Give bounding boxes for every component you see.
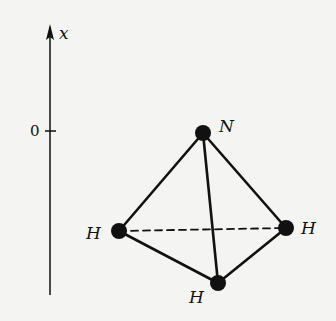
label-h-right: H bbox=[300, 218, 317, 238]
diagram-svg: x 0 N H H H bbox=[0, 0, 336, 321]
bonds bbox=[119, 133, 286, 283]
atom-h-bottom bbox=[210, 275, 226, 291]
axis-label: x bbox=[59, 23, 69, 43]
atom-h-right bbox=[278, 220, 294, 236]
bond-n-h3 bbox=[203, 133, 218, 283]
axis-tick-label: 0 bbox=[30, 122, 40, 140]
label-h-left: H bbox=[85, 223, 102, 243]
bond-h1-h3 bbox=[119, 231, 218, 283]
bond-n-h2 bbox=[203, 133, 286, 228]
label-n: N bbox=[218, 116, 235, 136]
x-axis: x 0 bbox=[30, 23, 69, 295]
diagram-canvas: x 0 N H H H bbox=[0, 0, 336, 321]
label-h-bottom: H bbox=[188, 287, 205, 307]
atom-h-left bbox=[111, 223, 127, 239]
bond-n-h1 bbox=[119, 133, 203, 231]
bond-dashed-h1-h2 bbox=[119, 228, 286, 231]
atom-n bbox=[195, 125, 211, 141]
bond-h2-h3 bbox=[218, 228, 286, 283]
atom-labels: N H H H bbox=[85, 116, 317, 307]
